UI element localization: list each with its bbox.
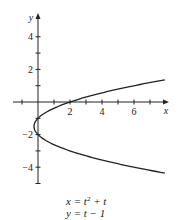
x-tick-label: 4 [100, 106, 105, 117]
x-axis-label: x [163, 105, 169, 116]
y-tick-label: −2 [22, 129, 33, 140]
y-tick-label: −4 [22, 162, 33, 173]
equation-x-suffix: + t [90, 195, 106, 207]
parametric-plot: 24624−2−4xy [0, 0, 187, 190]
y-axis-arrow-icon [36, 13, 41, 19]
equation-y: y = t − 1 [66, 207, 105, 219]
equation-y-text: y = t − 1 [66, 207, 105, 219]
parabola-curve [34, 80, 165, 173]
equation-x-prefix: x = t [66, 195, 87, 207]
x-axis-arrow-icon [163, 100, 169, 105]
y-tick-label: 4 [28, 31, 33, 42]
axes [13, 13, 169, 184]
x-tick-label: 6 [132, 106, 137, 117]
y-tick-label: 2 [28, 64, 33, 75]
equation-x: x = t2 + t [66, 195, 106, 207]
x-tick-label: 2 [68, 106, 73, 117]
y-axis-label: y [28, 12, 34, 23]
tick-labels: 24624−2−4xy [22, 12, 168, 173]
